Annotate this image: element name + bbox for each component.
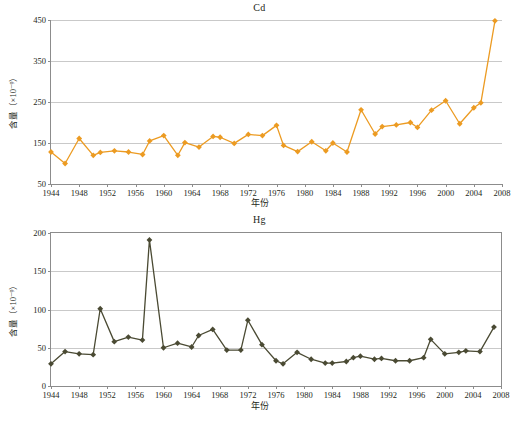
data-point-marker (196, 333, 202, 339)
series-layer (51, 233, 501, 386)
x-tick-mark (276, 386, 277, 389)
data-point-marker (357, 353, 363, 359)
data-point-marker (379, 356, 385, 362)
data-point-marker (125, 334, 131, 340)
x-tick-mark (220, 184, 221, 187)
y-tick-label: 150 (33, 267, 46, 276)
data-point-marker (463, 348, 469, 354)
series-layer (51, 20, 502, 184)
data-point-marker (140, 152, 146, 158)
y-tick-label: 250 (33, 98, 46, 107)
y-tick-label: 50 (38, 180, 47, 189)
data-point-marker (456, 349, 462, 355)
x-tick-mark (79, 184, 80, 187)
data-point-marker (322, 360, 328, 366)
x-tick-mark (305, 184, 306, 187)
y-tick-label: 100 (33, 305, 46, 314)
x-tick-mark (51, 386, 52, 389)
data-point-marker (343, 359, 349, 365)
data-point-marker (281, 143, 287, 149)
data-point-marker (97, 150, 103, 156)
y-tick-label: 350 (33, 57, 46, 66)
x-tick-mark (445, 386, 446, 389)
data-point-marker (161, 345, 167, 351)
data-point-marker (407, 358, 413, 364)
x-tick-mark (220, 386, 221, 389)
y-tick-label: 150 (33, 139, 46, 148)
x-tick-mark (474, 184, 475, 187)
axis-x-title-cd: 年份 (0, 196, 519, 209)
x-tick-mark (135, 386, 136, 389)
data-point-marker (97, 306, 103, 312)
chart-title-cd: Cd (0, 2, 519, 13)
plot-area-hg: 0501001502001944194819521956196019641968… (50, 232, 502, 387)
x-tick-mark (360, 386, 361, 389)
x-tick-mark (164, 184, 165, 187)
data-point-marker (126, 149, 132, 155)
data-point-marker (491, 324, 497, 330)
x-tick-mark (333, 184, 334, 187)
data-point-marker (217, 134, 223, 140)
y-tick-label: 50 (38, 344, 47, 353)
data-point-marker (421, 355, 427, 361)
x-tick-mark (332, 386, 333, 389)
x-tick-mark (192, 386, 193, 389)
chart-title-hg: Hg (0, 214, 519, 225)
x-tick-mark (248, 386, 249, 389)
x-tick-mark (417, 386, 418, 389)
x-tick-mark (79, 386, 80, 389)
x-tick-mark (107, 184, 108, 187)
data-point-marker (140, 337, 146, 343)
x-tick-mark (164, 386, 165, 389)
axis-y-title-cd: 含量（×10⁻⁹） (6, 56, 18, 146)
data-point-marker (245, 317, 251, 323)
x-tick-mark (361, 184, 362, 187)
x-tick-mark (501, 386, 502, 389)
x-tick-mark (473, 386, 474, 389)
data-point-marker (238, 347, 244, 353)
chart-panel-cd: Cd 5015025035045019441948195219561960196… (0, 0, 519, 213)
chart-panel-hg: Hg 0501001502001944194819521956196019641… (0, 213, 519, 427)
data-point-marker (112, 148, 118, 154)
x-tick-mark (446, 184, 447, 187)
x-tick-mark (192, 184, 193, 187)
x-tick-mark (304, 386, 305, 389)
x-tick-mark (502, 184, 503, 187)
axis-y-title-hg: 含量（×10⁻⁹） (6, 264, 18, 354)
data-point-marker (492, 18, 498, 24)
data-point-marker (111, 339, 117, 345)
plot-area-cd: 5015025035045019441948195219561960196419… (50, 20, 502, 185)
data-point-marker (90, 352, 96, 358)
data-point-marker (477, 349, 483, 355)
series-line-cd (51, 21, 495, 164)
data-point-marker (182, 140, 188, 146)
axis-x-title-hg: 年份 (0, 399, 519, 412)
data-point-marker (175, 340, 181, 346)
data-point-marker (329, 360, 335, 366)
data-point-marker (308, 356, 314, 362)
data-point-marker (393, 358, 399, 364)
data-point-marker (372, 356, 378, 362)
data-point-marker (76, 351, 82, 357)
series-line-hg (51, 240, 494, 364)
data-point-marker (393, 122, 399, 128)
y-tick-label: 200 (33, 229, 46, 238)
x-tick-mark (389, 386, 390, 389)
data-point-marker (147, 237, 153, 243)
data-point-marker (358, 107, 364, 113)
x-tick-mark (277, 184, 278, 187)
x-tick-mark (417, 184, 418, 187)
x-tick-mark (51, 184, 52, 187)
data-point-marker (350, 355, 356, 361)
x-tick-mark (107, 386, 108, 389)
y-tick-label: 0 (42, 382, 46, 391)
data-point-marker (147, 138, 153, 144)
data-point-marker (189, 344, 195, 350)
x-tick-mark (136, 184, 137, 187)
y-tick-label: 450 (33, 16, 46, 25)
x-tick-mark (248, 184, 249, 187)
x-tick-mark (389, 184, 390, 187)
